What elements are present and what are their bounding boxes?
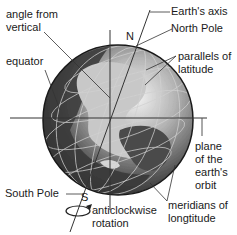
label-anticlockwise-rotation: anticlockwise rotation [92, 204, 157, 230]
label-plane-of-orbit: plane of the earth's orbit [195, 140, 228, 192]
label-meridians-of-longitude: meridians of longtitude [168, 199, 228, 225]
earth-diagram: angle from vertical equator Earth's axis… [0, 0, 237, 235]
label-angle-from-vertical: angle from vertical [6, 8, 58, 34]
label-earths-axis: Earth's axis [171, 5, 228, 18]
label-parallels-of-latitude: parallels of latitude [178, 50, 231, 76]
label-s-marker: S [81, 191, 88, 204]
label-n-marker: N [126, 30, 134, 43]
label-north-pole: North Pole [171, 22, 223, 35]
label-equator: equator [6, 55, 43, 68]
label-south-pole: South Pole [5, 187, 59, 200]
